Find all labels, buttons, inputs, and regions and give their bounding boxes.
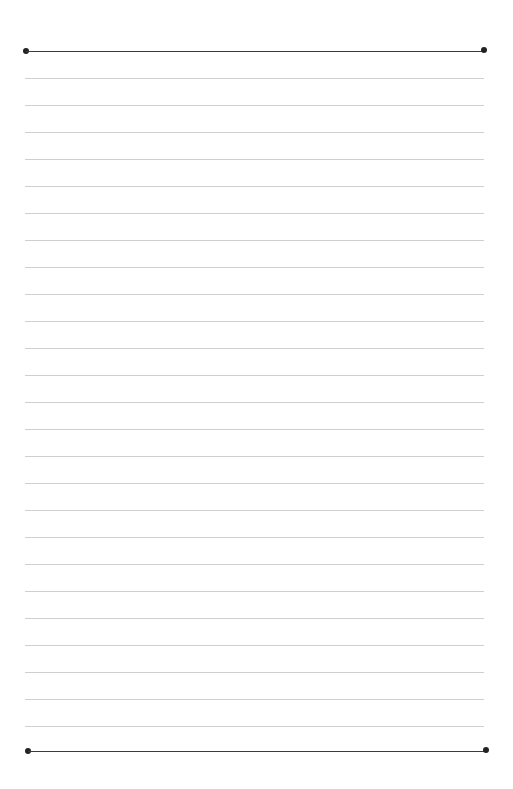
ruled-line	[25, 591, 484, 592]
ruled-line	[25, 726, 484, 727]
ruled-line	[25, 510, 484, 511]
ruled-line	[25, 348, 484, 349]
ruled-line	[25, 213, 484, 214]
ruled-line	[25, 294, 484, 295]
ruled-line	[25, 537, 484, 538]
ruled-line	[25, 564, 484, 565]
lined-paper-page	[0, 0, 513, 789]
ruled-line	[25, 186, 484, 187]
ruled-line	[25, 699, 484, 700]
bottom-border-rule	[28, 751, 486, 752]
ruled-line	[25, 483, 484, 484]
ruled-line	[25, 78, 484, 79]
bottom-right-dot	[483, 747, 489, 753]
ruled-line	[25, 159, 484, 160]
ruled-line	[25, 402, 484, 403]
ruled-line	[25, 429, 484, 430]
ruled-line	[25, 105, 484, 106]
top-border-rule	[26, 51, 484, 52]
ruled-line	[25, 375, 484, 376]
ruled-line	[25, 618, 484, 619]
ruled-line	[25, 267, 484, 268]
ruled-line	[25, 132, 484, 133]
ruled-line	[25, 456, 484, 457]
ruled-line	[25, 645, 484, 646]
ruled-line	[25, 672, 484, 673]
top-right-dot	[481, 47, 487, 53]
ruled-line	[25, 321, 484, 322]
ruled-line	[25, 240, 484, 241]
